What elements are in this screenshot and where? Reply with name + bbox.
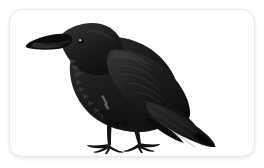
left-foot	[87, 144, 124, 154]
eye-highlight-icon	[79, 39, 82, 42]
illustration-card: Black crow standing in profile facing le…	[9, 9, 255, 157]
right-foot	[123, 143, 160, 153]
crow-illustration: Black crow standing in profile facing le…	[10, 10, 255, 157]
screenshot-root: Black crow standing in profile facing le…	[0, 0, 264, 168]
left-leg	[107, 123, 112, 145]
